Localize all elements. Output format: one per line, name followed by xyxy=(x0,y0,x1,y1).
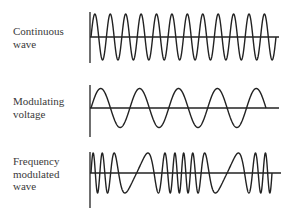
waveform-diagram xyxy=(0,0,296,211)
fm-wave-curve xyxy=(91,153,272,193)
